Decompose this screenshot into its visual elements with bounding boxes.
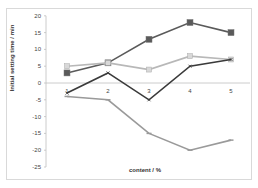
data-point-marker [228,30,234,36]
y-tick-label: 5 [38,63,42,69]
y-tick-label: -15 [32,130,41,136]
y-tick-label: -10 [32,114,41,120]
series-line [67,96,231,150]
y-tick-label: 15 [34,30,41,36]
y-tick-label: 10 [34,46,41,52]
x-tick-label: 3 [147,88,151,94]
x-axis-label: content / % [110,167,180,173]
data-point-marker [187,20,193,26]
x-tick-label: 4 [188,88,192,94]
y-axis-label: Initial setting time / min [9,8,15,108]
x-tick-label: 2 [106,88,110,94]
x-tick-label: 5 [229,88,233,94]
series-line [67,23,231,73]
data-point-marker [64,70,70,76]
y-tick-label: 20 [34,13,41,19]
y-tick-label: 0 [38,80,42,86]
y-tick-label: -25 [32,164,41,170]
data-point-marker [146,36,152,42]
data-point-marker [188,54,193,59]
data-point-marker [106,60,111,65]
y-tick-label: -20 [32,147,41,153]
y-tick-label: -5 [36,97,42,103]
line-chart: 20151050-5-10-15-20-2512345 [0,0,258,188]
data-point-marker [147,67,152,72]
data-point-marker [65,64,70,69]
